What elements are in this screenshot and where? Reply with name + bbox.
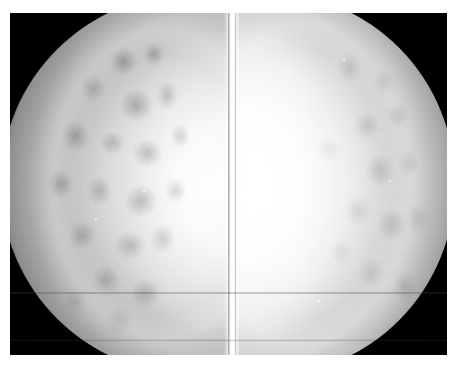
mammogram-page: Grayscale bilateral mammogram showing tw… — [0, 0, 462, 366]
film-vignette-overlay — [10, 13, 447, 355]
radiograph-film — [10, 13, 447, 355]
